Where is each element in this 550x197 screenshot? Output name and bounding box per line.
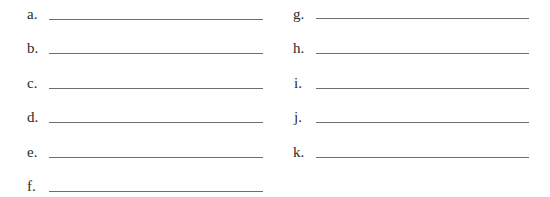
answer-blank-e[interactable] — [49, 157, 263, 158]
answer-blank-g[interactable] — [316, 18, 529, 19]
answer-blank-d[interactable] — [49, 122, 263, 123]
item-label-h: h. — [293, 41, 304, 56]
answer-blank-b[interactable] — [49, 53, 263, 54]
item-label-i: i. — [294, 76, 302, 91]
answer-blank-j[interactable] — [316, 122, 529, 123]
item-label-g: g. — [293, 7, 304, 22]
answer-blank-h[interactable] — [316, 53, 529, 54]
item-label-b: b. — [27, 41, 38, 56]
item-label-d: d. — [27, 110, 38, 125]
answer-blank-f[interactable] — [49, 191, 263, 192]
item-label-k: k. — [293, 145, 304, 160]
answer-blank-c[interactable] — [49, 88, 263, 89]
answer-blank-k[interactable] — [316, 157, 529, 158]
answer-blank-a[interactable] — [49, 19, 263, 20]
item-label-j: j. — [294, 110, 302, 125]
item-label-e: e. — [27, 145, 37, 160]
answer-blank-i[interactable] — [316, 88, 529, 89]
item-label-c: c. — [27, 76, 37, 91]
item-label-a: a. — [27, 7, 37, 22]
item-label-f: f. — [27, 179, 36, 194]
